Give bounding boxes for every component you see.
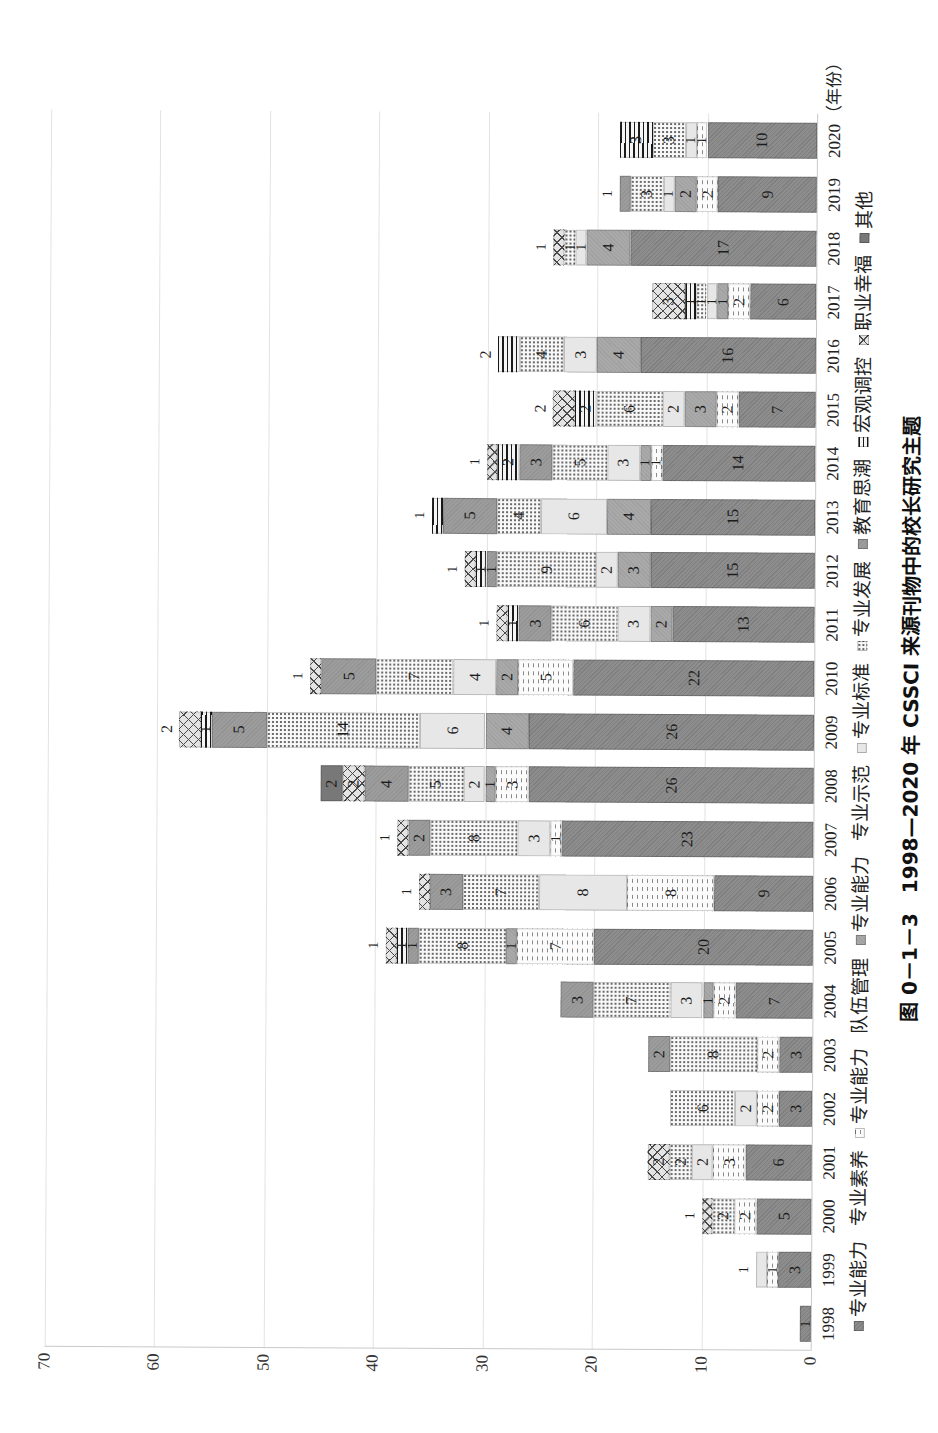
segment-value-label: 3	[527, 438, 545, 486]
legend-item: 专业发展	[851, 561, 873, 651]
bar-segment	[432, 497, 443, 533]
legend-marker-icon	[857, 743, 867, 753]
segment-value-label: 3	[691, 385, 709, 433]
segment-value-label: 3	[787, 1031, 805, 1079]
bar-segment	[419, 874, 430, 910]
bar-segment	[310, 658, 321, 694]
x-tick-label: 2012	[823, 544, 843, 598]
segment-value-label: 26	[662, 708, 680, 756]
segment-value-label: 2	[737, 1192, 755, 1240]
y-tick-label: 30	[472, 1355, 492, 1395]
bar-segment	[553, 390, 575, 426]
chart-legend: 专业能力 专业素养专业能力 队伍管理专业能力 专业示范专业标准专业发展教育思潮宏…	[848, 179, 876, 1331]
segment-value-label: 4	[610, 331, 628, 379]
x-tick-label: 2003	[820, 1028, 840, 1082]
page: 专业能力 专业素养专业能力 队伍管理专业能力 专业示范专业标准专业发展教育思潮宏…	[0, 0, 938, 1433]
segment-value-label: 4	[510, 492, 528, 540]
segment-value-label: 1	[681, 1192, 699, 1240]
bar-segment	[620, 176, 631, 212]
y-tick-label: 60	[143, 1353, 163, 1393]
segment-value-label: 2	[323, 760, 341, 808]
segment-value-label: 6	[693, 1084, 711, 1132]
segment-value-label: 3	[786, 1085, 804, 1133]
legend-label: 专业标准	[851, 663, 873, 739]
legend-label: 宏观调控	[852, 357, 874, 433]
bar-segment	[386, 927, 397, 963]
segment-value-label: 8	[662, 869, 680, 917]
legend-marker-icon	[855, 1128, 865, 1138]
legend-item: 职业幸福	[853, 255, 875, 345]
segment-value-label: 5	[340, 652, 358, 700]
segment-value-label: 2	[477, 330, 495, 378]
y-tick-label: 50	[253, 1354, 273, 1394]
segment-value-label: 7	[765, 977, 783, 1025]
segment-value-label: 7	[492, 868, 510, 916]
legend-marker-icon	[858, 539, 868, 549]
segment-value-label: 10	[753, 117, 771, 165]
x-tick-label: 2018	[824, 222, 844, 276]
segment-value-label: 3	[720, 1138, 738, 1186]
legend-item: 专业能力 队伍管理	[849, 957, 872, 1138]
segment-value-label: 7	[405, 653, 423, 701]
x-tick-label: 2002	[820, 1082, 840, 1136]
segment-value-label: 3	[627, 116, 645, 164]
legend-item: 其他	[853, 191, 875, 243]
segment-value-label: 23	[678, 815, 696, 863]
x-tick-label: 2007	[821, 813, 841, 867]
segment-value-label: 4	[533, 331, 551, 379]
segment-value-label: 2	[532, 384, 550, 432]
x-tick-label: 2009	[822, 706, 842, 760]
segment-value-label: 5	[461, 492, 479, 540]
segment-value-label: 6	[565, 492, 583, 540]
segment-value-label: 6	[575, 600, 593, 648]
x-tick-label: 2015	[823, 383, 843, 437]
legend-item: 专业能力 专业示范	[850, 765, 873, 946]
segment-value-label: 22	[685, 654, 703, 702]
bar-segment	[497, 605, 508, 641]
segment-value-label: 13	[734, 600, 752, 648]
segment-value-label: 2	[759, 1031, 777, 1079]
segment-value-label: 3	[525, 814, 543, 862]
x-tick-label: 2001	[820, 1136, 840, 1190]
x-tick-label: 2013	[823, 490, 843, 544]
bar-segment	[464, 551, 475, 587]
segment-value-label: 1	[476, 599, 494, 647]
segment-value-label: 3	[638, 170, 656, 218]
segment-value-label: 4	[466, 653, 484, 701]
segment-value-label: 20	[694, 923, 712, 971]
x-tick-label: 2000	[819, 1189, 839, 1243]
segment-value-label: 14	[730, 439, 748, 487]
segment-value-label: 15	[724, 493, 742, 541]
segment-value-label: 3	[659, 277, 677, 325]
segment-value-label: 4	[377, 760, 395, 808]
segment-value-label: 8	[574, 869, 592, 917]
y-tick-label: 0	[800, 1357, 820, 1397]
x-tick-label: 2008	[821, 759, 841, 813]
segment-value-label: 9	[755, 869, 773, 917]
segment-value-label: 8	[453, 922, 471, 970]
legend-label: 教育思潮	[852, 459, 874, 535]
segment-value-label: 5	[427, 760, 445, 808]
legend-marker-icon	[858, 437, 868, 447]
segment-value-label: 1	[398, 868, 416, 916]
segment-value-label: 1	[599, 170, 617, 218]
legend-label: 专业能力 队伍管理	[849, 957, 872, 1124]
segment-value-label: 9	[758, 170, 776, 218]
x-tick-label: 2019	[825, 168, 845, 222]
segment-value-label: 3	[677, 977, 695, 1025]
x-tick-label: 2006	[821, 867, 841, 921]
segment-value-label: 8	[465, 814, 483, 862]
segment-value-label: 7	[768, 386, 786, 434]
x-tick-label: 1999	[819, 1243, 839, 1297]
segment-value-label: 2	[650, 1030, 668, 1078]
segment-value-label: 4	[498, 707, 516, 755]
bar-segment	[498, 336, 520, 372]
segment-value-label: 2	[158, 705, 176, 753]
legend-label: 专业发展	[851, 561, 873, 637]
bar-segment	[756, 1252, 767, 1288]
gridline	[44, 110, 51, 1347]
segment-value-label: 2	[716, 977, 734, 1025]
segment-value-label: 7	[623, 976, 641, 1024]
segment-value-label: 3	[571, 331, 589, 379]
segment-value-label: 3	[625, 546, 643, 594]
